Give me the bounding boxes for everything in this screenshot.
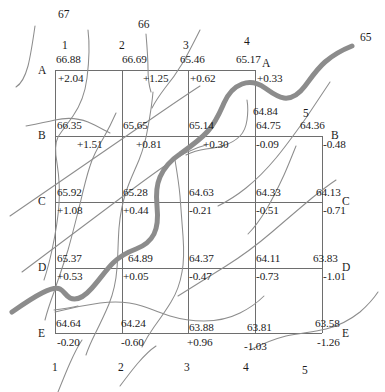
node-A3-delta: +0.62: [190, 73, 215, 84]
contour-line-a: [44, 30, 89, 280]
node-E2-elevation: 64.24: [121, 318, 146, 329]
node-D1-elevation: 65.37: [57, 253, 82, 264]
column-label-bottom-3: 3: [184, 362, 190, 374]
node-E2-delta: -0.60: [121, 337, 144, 348]
contour-line-h: [22, 145, 206, 272]
node-C3-elevation: 64.63: [189, 187, 214, 198]
node-D3-delta: -0.47: [189, 271, 212, 282]
node-C1-delta: +1.08: [57, 205, 82, 216]
node-D5-delta: -1.01: [323, 271, 346, 282]
node-E3-delta: +0.96: [187, 337, 212, 348]
node-C5-elevation: 64.13: [316, 187, 341, 198]
node-C2-delta: +0.44: [123, 205, 148, 216]
node-E5-elevation: 63.58: [315, 318, 340, 329]
node-E1-elevation: 64.64: [56, 318, 81, 329]
column-label-bottom-2: 2: [118, 362, 124, 374]
node-B4-elevation: 64.75: [256, 120, 281, 131]
node-E4-elevation: 63.81: [247, 322, 272, 333]
node-B2-delta: +0.81: [136, 139, 161, 150]
column-label-top-2: 2: [119, 40, 125, 52]
node-E5-delta: -1.26: [317, 337, 340, 348]
extra-elevation-64-84: 64.84: [253, 106, 278, 117]
contour-line-d: [152, 30, 200, 108]
contour-line-k: [55, 296, 264, 321]
node-A1-delta: +2.04: [58, 73, 83, 84]
contour-label-5-upper: 5: [303, 108, 309, 120]
row-label-right-E: E: [342, 328, 349, 340]
node-C1-elevation: 65.92: [57, 187, 82, 198]
node-D1-delta: +0.53: [57, 271, 82, 282]
contour-label-66: 66: [138, 19, 150, 31]
node-D3-elevation: 64.37: [189, 253, 214, 264]
node-D2-delta: +0.05: [123, 271, 148, 282]
node-B3-elevation: 65.14: [189, 120, 214, 131]
node-D4-delta: -0.73: [256, 271, 279, 282]
node-E4-delta: -1.03: [244, 341, 267, 352]
contour-line-67: [16, 26, 35, 87]
row-label-left-E: E: [38, 328, 45, 340]
node-B5-delta: -0.48: [323, 139, 346, 150]
node-A4-delta: +0.33: [257, 73, 282, 84]
column-label-top-3: 3: [183, 40, 189, 52]
column-label-bottom-4: 4: [243, 362, 249, 374]
contour-label-67: 67: [58, 9, 70, 21]
row-label-left-B: B: [38, 130, 46, 142]
node-B1-delta: +1.51: [77, 139, 102, 150]
contour-line-o: [120, 346, 156, 386]
node-B4-delta: -0.09: [256, 139, 279, 150]
row-label-left-C: C: [38, 196, 46, 208]
row-label-left-D: D: [38, 262, 46, 274]
node-E3-elevation: 63.88: [189, 322, 214, 333]
grid-lines: [55, 70, 322, 333]
contour-label-5-lower: 5: [302, 365, 308, 377]
node-C2-elevation: 65.28: [123, 187, 148, 198]
column-label-bottom-1: 1: [52, 362, 58, 374]
node-B3-delta: +0.30: [203, 139, 228, 150]
contour-grid-map: 67 66 65 5 5 1 2 3 4 1 2 3 4 A B C D E A…: [0, 0, 385, 392]
contour-line-c: [86, 92, 153, 355]
node-D2-elevation: 64.89: [128, 253, 153, 264]
node-D4-elevation: 64.11: [256, 253, 280, 264]
node-E1-delta: -0.20: [57, 337, 80, 348]
node-A2-elevation: 66.69: [122, 54, 147, 65]
node-A4-elevation: 65.17: [236, 54, 261, 65]
contour-label-65: 65: [360, 32, 372, 44]
node-B2-elevation: 65.65: [123, 120, 148, 131]
node-A1-elevation: 66.88: [56, 54, 81, 65]
node-B5-elevation: 64.36: [300, 120, 325, 131]
node-C4-delta: -0.51: [256, 205, 279, 216]
node-D5-elevation: 63.83: [313, 253, 338, 264]
node-B1-elevation: 66.35: [57, 120, 82, 131]
row-label-right-A: A: [262, 58, 270, 70]
node-C3-delta: -0.21: [189, 205, 212, 216]
row-label-left-A: A: [38, 65, 46, 77]
node-C4-elevation: 64.33: [256, 187, 281, 198]
node-C5-delta: -0.71: [323, 205, 346, 216]
node-A2-delta: +1.25: [143, 73, 168, 84]
column-label-top-1: 1: [62, 40, 68, 52]
column-label-top-4: 4: [244, 36, 250, 48]
node-A3-elevation: 65.46: [180, 54, 205, 65]
